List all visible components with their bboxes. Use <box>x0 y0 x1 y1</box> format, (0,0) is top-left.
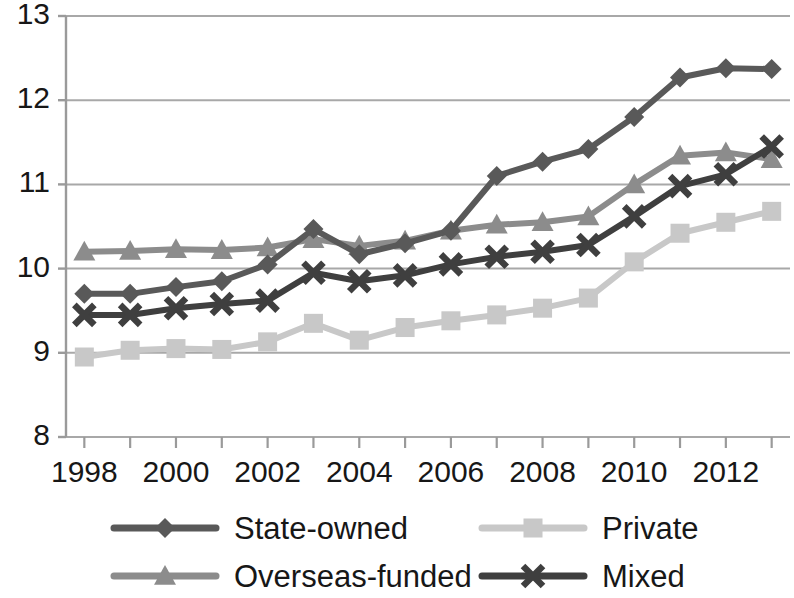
data-point-marker-diamond <box>716 58 736 78</box>
data-point-marker-square <box>304 314 323 333</box>
data-point-marker-diamond <box>155 518 175 538</box>
data-point-marker-square <box>524 519 543 538</box>
data-point-marker-square <box>166 339 185 358</box>
legend-label: Mixed <box>602 561 685 592</box>
legend-swatch-square-icon <box>478 513 588 543</box>
y-tick-label: 13 <box>17 0 50 31</box>
y-tick-label: 8 <box>33 418 50 452</box>
data-point-marker-square <box>212 340 231 359</box>
x-tick-label: 2004 <box>309 455 409 489</box>
legend-item-private[interactable]: Private <box>478 507 698 549</box>
legend-label: Private <box>602 513 698 544</box>
data-point-marker-diamond <box>74 284 94 304</box>
data-point-marker-square <box>625 252 644 271</box>
data-point-marker-square <box>258 332 277 351</box>
data-point-marker-square <box>121 341 140 360</box>
data-point-marker-diamond <box>120 284 140 304</box>
data-point-marker-square <box>671 224 690 243</box>
data-point-marker-diamond <box>533 152 553 172</box>
data-point-marker-square <box>441 311 460 330</box>
data-point-marker-square <box>75 348 94 367</box>
y-tick-label: 9 <box>33 334 50 368</box>
y-tick-label: 11 <box>19 165 50 199</box>
x-tick-label: 2012 <box>676 455 776 489</box>
series-line <box>84 147 771 315</box>
legend-swatch-x-icon <box>478 561 588 591</box>
data-point-marker-diamond <box>166 277 186 297</box>
y-tick-label: 10 <box>17 250 50 284</box>
data-point-marker-square <box>716 213 735 232</box>
data-point-marker-x <box>624 206 644 226</box>
data-point-marker-square <box>487 305 506 324</box>
data-point-marker-diamond <box>762 59 782 79</box>
data-point-marker-square <box>350 331 369 350</box>
x-tick-label: 2006 <box>401 455 501 489</box>
legend-item-mixed[interactable]: Mixed <box>478 555 685 597</box>
legend-label: State-owned <box>234 513 408 544</box>
x-tick-label: 2008 <box>493 455 593 489</box>
data-point-marker-square <box>579 289 598 308</box>
x-tick-label: 1998 <box>34 455 134 489</box>
legend-item-overseas-funded[interactable]: Overseas-funded <box>110 555 472 597</box>
data-point-marker-square <box>396 318 415 337</box>
legend-swatch-diamond-icon <box>110 513 220 543</box>
x-tick-label: 2000 <box>126 455 226 489</box>
legend-label: Overseas-funded <box>234 561 472 592</box>
series-line <box>84 68 771 294</box>
legend-swatch-triangle-icon <box>110 561 220 591</box>
line-chart: 8910111213 19982000200220042006200820102… <box>0 0 794 598</box>
y-tick-label: 12 <box>17 81 50 115</box>
chart-legend: State-ownedPrivateOverseas-fundedMixed <box>0 505 794 598</box>
x-tick-label: 2002 <box>218 455 318 489</box>
data-point-marker-square <box>762 202 781 221</box>
x-tick-label: 2010 <box>584 455 684 489</box>
legend-item-state-owned[interactable]: State-owned <box>110 507 408 549</box>
data-point-marker-diamond <box>212 271 232 291</box>
data-point-marker-square <box>533 299 552 318</box>
